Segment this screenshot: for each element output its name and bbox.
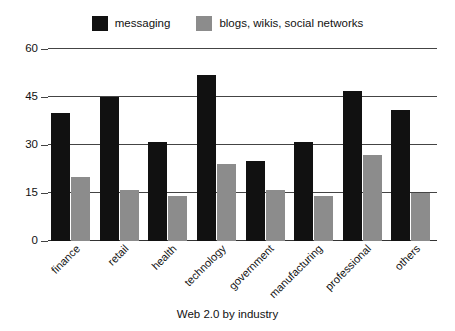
y-tick-mark-15 xyxy=(41,193,48,194)
chart-caption: Web 2.0 by industry xyxy=(0,308,455,321)
y-tick-mark-60 xyxy=(41,49,48,50)
x-tick-label-professional: professional xyxy=(324,243,374,293)
x-tick-label-retail: retail xyxy=(106,243,131,268)
bar-technology-blogs[interactable] xyxy=(217,164,236,241)
y-tick-label-45: 45 xyxy=(4,91,38,102)
bar-government-messaging[interactable] xyxy=(246,161,265,241)
bar-group-retail xyxy=(97,49,146,241)
bar-health-blogs[interactable] xyxy=(168,196,187,241)
x-tick-label-others: others xyxy=(393,243,422,272)
x-tick-label-health: health xyxy=(150,243,179,272)
y-tick-label-0: 0 xyxy=(4,235,38,246)
y-tick-label-30: 30 xyxy=(4,139,38,150)
bar-retail-blogs[interactable] xyxy=(120,190,139,241)
bar-professional-messaging[interactable] xyxy=(343,91,362,241)
bar-government-blogs[interactable] xyxy=(266,190,285,241)
bar-finance-messaging[interactable] xyxy=(51,113,70,241)
y-tick-mark-45 xyxy=(41,97,48,98)
x-tick-label-technology: technology xyxy=(182,243,227,288)
bar-chart-figure: messaging blogs, wikis, social networks … xyxy=(0,0,455,331)
bars-layer xyxy=(48,49,437,241)
y-tick-mark-30 xyxy=(41,145,48,146)
chart-legend: messaging blogs, wikis, social networks xyxy=(0,12,455,34)
legend-swatch-blogs xyxy=(196,16,212,31)
bar-technology-messaging[interactable] xyxy=(197,75,216,241)
bar-professional-blogs[interactable] xyxy=(363,155,382,241)
bar-group-others xyxy=(388,49,437,241)
y-tick-mark-0 xyxy=(41,241,48,242)
bar-group-health xyxy=(145,49,194,241)
bar-retail-messaging[interactable] xyxy=(100,97,119,241)
x-tick-label-finance: finance xyxy=(49,243,82,276)
y-tick-label-15: 15 xyxy=(4,187,38,198)
bar-group-manufacturing xyxy=(291,49,340,241)
x-tick-label-government: government xyxy=(227,243,276,292)
bar-group-technology xyxy=(194,49,243,241)
legend-entry-messaging: messaging xyxy=(92,16,171,31)
legend-swatch-messaging xyxy=(92,16,108,31)
bar-others-messaging[interactable] xyxy=(391,110,410,241)
bar-finance-blogs[interactable] xyxy=(71,177,90,241)
bar-group-professional xyxy=(340,49,389,241)
x-axis-labels: financeretailhealthtechnologygovernmentm… xyxy=(48,243,437,303)
y-tick-label-60: 60 xyxy=(4,43,38,54)
bar-group-government xyxy=(243,49,292,241)
legend-entry-blogs: blogs, wikis, social networks xyxy=(196,16,363,31)
bar-group-finance xyxy=(48,49,97,241)
bar-health-messaging[interactable] xyxy=(148,142,167,241)
bar-others-blogs[interactable] xyxy=(411,193,430,241)
legend-label-messaging: messaging xyxy=(115,17,171,29)
legend-label-blogs: blogs, wikis, social networks xyxy=(219,17,363,29)
bar-manufacturing-blogs[interactable] xyxy=(314,196,333,241)
plot-area xyxy=(48,49,437,241)
bar-manufacturing-messaging[interactable] xyxy=(294,142,313,241)
x-tick-label-manufacturing: manufacturing xyxy=(268,243,325,300)
